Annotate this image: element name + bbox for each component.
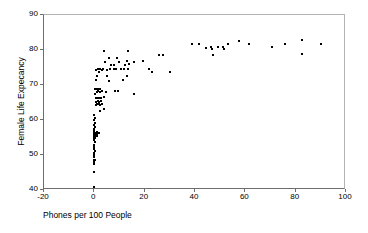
plot-area (43, 14, 345, 189)
x-axis-tick-label: 40 (177, 193, 211, 201)
x-axis-tick-label: 0 (76, 193, 110, 201)
y-axis-tick-mark (40, 14, 43, 15)
x-axis-title: Phones per 100 People (43, 209, 132, 221)
y-axis-title: Female Life Expecancy (14, 14, 28, 189)
scatter-plot-figure: 405060708090-20020406080100 Female Life … (0, 0, 368, 233)
x-axis-tick-label: 100 (328, 193, 362, 201)
x-axis-tick-label: 80 (278, 193, 312, 201)
x-axis-tick-label: 60 (227, 193, 261, 201)
y-axis-tick-mark (40, 119, 43, 120)
y-axis-tick-mark (40, 49, 43, 50)
y-axis-tick-mark (40, 154, 43, 155)
y-axis-tick-mark (40, 84, 43, 85)
x-axis-tick-label: -20 (26, 193, 60, 201)
x-axis-tick-label: 20 (127, 193, 161, 201)
